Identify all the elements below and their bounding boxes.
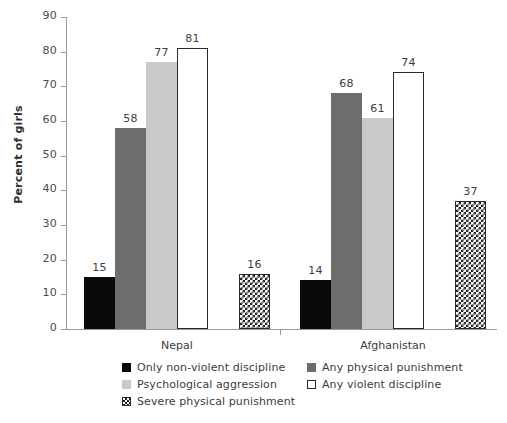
bar-value-label: 15 <box>84 261 115 274</box>
bar-value-label: 81 <box>177 32 208 45</box>
y-axis-tick-label: 90 <box>43 9 57 22</box>
legend-swatch-light-gray-icon <box>122 380 131 389</box>
bar-value-label: 68 <box>331 77 362 90</box>
x-axis-center-tick <box>280 330 281 335</box>
y-axis-tick-mark <box>61 86 66 87</box>
y-axis-tick-label: 10 <box>43 286 57 299</box>
bar <box>146 62 177 329</box>
bar <box>362 118 393 329</box>
bar-chart-figure: Percent of girls 9080706050403020100 155… <box>0 0 507 423</box>
y-axis-tick-mark <box>61 329 66 330</box>
y-axis-tick-mark <box>61 156 66 157</box>
legend-swatch-white-outline-icon <box>307 380 316 389</box>
legend-item[interactable]: Only non-violent discipline <box>122 361 285 374</box>
y-axis-tick-label: 80 <box>43 44 57 57</box>
y-axis-tick-mark <box>61 52 66 53</box>
legend-swatch-checkered-icon <box>122 397 131 406</box>
plot-area: 9080706050403020100 15587781161468617437… <box>66 17 496 329</box>
legend-item[interactable]: Psychological aggression <box>122 378 277 391</box>
bar <box>84 277 115 329</box>
bar <box>393 72 424 329</box>
bar-value-label: 61 <box>362 102 393 115</box>
legend-item[interactable]: Severe physical punishment <box>122 395 295 408</box>
y-axis-tick-mark <box>61 294 66 295</box>
category-label-afghanistan: Afghanistan <box>300 339 486 352</box>
legend-item[interactable]: Any violent discipline <box>307 378 441 391</box>
bar-value-label: 77 <box>146 46 177 59</box>
bar <box>455 201 486 329</box>
legend-label: Only non-violent discipline <box>137 361 285 374</box>
bar-value-label: 58 <box>115 112 146 125</box>
y-axis-tick-mark <box>61 190 66 191</box>
legend-label: Severe physical punishment <box>137 395 295 408</box>
y-axis-title: Percent of girls <box>12 90 25 220</box>
y-axis-tick-label: 20 <box>43 252 57 265</box>
legend-swatch-dark-gray-icon <box>307 363 316 372</box>
y-axis-tick-label: 0 <box>50 321 57 334</box>
y-axis-tick-label: 60 <box>43 113 57 126</box>
bar-value-label: 74 <box>393 56 424 69</box>
y-axis-tick-label: 30 <box>43 217 57 230</box>
bar-value-label: 16 <box>239 258 270 271</box>
bar <box>239 274 270 329</box>
legend-item[interactable]: Any physical punishment <box>307 361 463 374</box>
category-label-nepal: Nepal <box>84 339 270 352</box>
y-axis-tick-label: 50 <box>43 148 57 161</box>
y-axis-tick-label: 40 <box>43 182 57 195</box>
bar <box>115 128 146 329</box>
bar <box>331 93 362 329</box>
y-axis-tick-label: 70 <box>43 78 57 91</box>
legend-label: Any physical punishment <box>322 361 463 374</box>
legend-label: Any violent discipline <box>322 378 441 391</box>
y-axis-line <box>66 17 67 329</box>
legend-swatch-black-icon <box>122 363 131 372</box>
legend-label: Psychological aggression <box>137 378 277 391</box>
x-axis-line <box>61 329 497 330</box>
y-axis-tick-mark <box>61 260 66 261</box>
y-axis-tick-mark <box>61 121 66 122</box>
y-axis-tick-mark <box>61 17 66 18</box>
y-axis-tick-mark <box>61 225 66 226</box>
bar-value-label: 37 <box>455 185 486 198</box>
bar <box>177 48 208 329</box>
bar-value-label: 14 <box>300 264 331 277</box>
bar <box>300 280 331 329</box>
